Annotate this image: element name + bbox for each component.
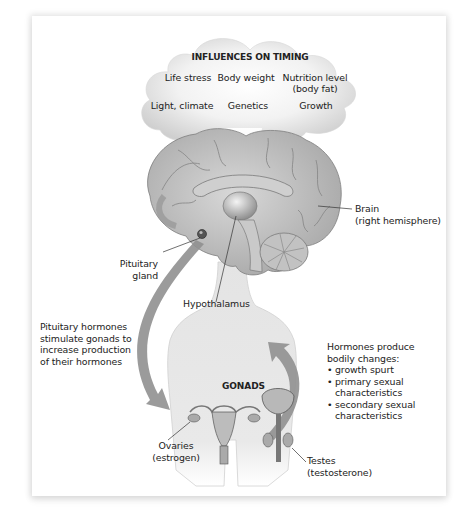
change-primary-sexual: primary sexualcharacteristics [327, 376, 415, 399]
factor-nutrition-sub: (body fat) [280, 83, 350, 95]
testes-label: Testes (testosterone) [307, 455, 372, 478]
cloud-title: INFLUENCES ON TIMING [190, 52, 310, 64]
hypothalamus-label: Hypothalamus [183, 298, 250, 310]
brain-illustration [148, 129, 342, 275]
factor-life-stress: Life stress [158, 72, 218, 84]
hormones-produce-note: Hormones produce bodily changes: growth … [327, 341, 415, 422]
pituitary-gland-label: Pituitary gland [100, 258, 158, 281]
ovaries-label: Ovaries (estrogen) [146, 440, 206, 463]
pituitary-hormones-note: Pituitary hormones stimulate gonads to i… [40, 321, 132, 367]
factor-nutrition-level: Nutrition level [280, 72, 350, 84]
factor-body-weight: Body weight [214, 72, 278, 84]
gonads-label: GONADS [222, 381, 265, 393]
factor-light-climate: Light, climate [150, 100, 214, 112]
change-secondary-sexual: secondary sexualcharacteristics [327, 399, 415, 422]
change-growth-spurt: growth spurt [327, 364, 415, 376]
factor-genetics: Genetics [218, 100, 278, 112]
factor-growth: Growth [284, 100, 348, 112]
brain-label: Brain (right hemisphere) [355, 203, 441, 226]
testes-leader-line [292, 448, 306, 462]
bodily-changes-list: growth spurt primary sexualcharacteristi… [327, 364, 415, 422]
